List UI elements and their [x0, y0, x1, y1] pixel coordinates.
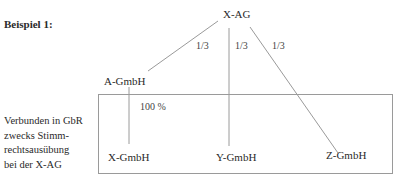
node-z-gmbh: Z-GmbH	[326, 149, 366, 161]
edge-label-a: 1/3	[196, 40, 209, 51]
group-description-line: Verbunden in GbR	[4, 114, 96, 129]
group-description-line: zwecks Stimm-	[4, 129, 96, 144]
edge-label-y: 1/3	[235, 40, 248, 51]
group-description: Verbunden in GbR zwecks Stimm- rechtsaus…	[4, 114, 96, 172]
node-a-gmbh: A-GmbH	[104, 75, 146, 87]
node-x-gmbh: X-GmbH	[108, 151, 150, 163]
edge-label-a-to-x: 100 %	[140, 101, 166, 112]
group-description-line: bei der X-AG	[4, 158, 96, 173]
edge-label-z: 1/3	[272, 40, 285, 51]
group-description-line: rechtsausübung	[4, 143, 96, 158]
node-x-ag: X-AG	[223, 8, 251, 20]
node-y-gmbh: Y-GmbH	[216, 151, 256, 163]
